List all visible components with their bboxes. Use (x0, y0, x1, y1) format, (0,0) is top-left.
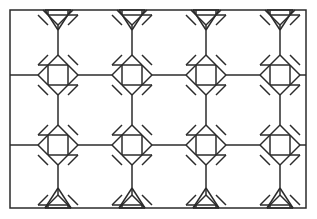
figure-background (0, 0, 317, 219)
pattern-canvas (0, 0, 317, 219)
tessellation-figure (0, 0, 317, 219)
